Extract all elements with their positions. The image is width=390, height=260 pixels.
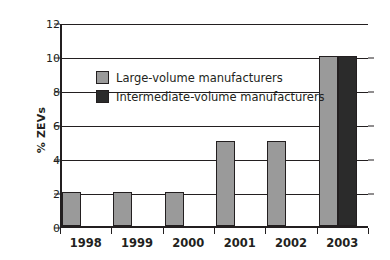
gridline-12 — [62, 24, 368, 25]
legend-label-2: Intermediate-volume manufacturers — [116, 90, 325, 104]
bar-2003-series-2 — [338, 56, 357, 226]
bar-1998-series-1 — [62, 192, 81, 226]
x-tick-mark-1 — [111, 228, 112, 234]
bar-2001-series-1 — [216, 141, 235, 226]
x-tick-mark-5 — [317, 228, 318, 234]
bar-2002-series-1 — [267, 141, 286, 226]
x-tick-mark-4 — [265, 228, 266, 234]
legend-swatch-1 — [96, 71, 109, 84]
legend-item-2: Intermediate-volume manufacturers — [96, 87, 325, 106]
plot-area — [60, 24, 368, 228]
y-tick-mark-right-8 — [368, 92, 374, 93]
x-tick-label-2003: 2003 — [312, 236, 372, 250]
legend-item-1: Large-volume manufacturers — [96, 68, 325, 87]
legend-label-1: Large-volume manufacturers — [116, 71, 283, 85]
y-tick-mark-right-2 — [368, 194, 374, 195]
x-tick-mark-3 — [214, 228, 215, 234]
bar-chart-figure: % ZEVs 024681012 19981999200020012002200… — [0, 0, 390, 260]
chart-legend: Large-volume manufacturersIntermediate-v… — [96, 68, 325, 106]
y-tick-mark-right-10 — [368, 58, 374, 59]
y-tick-mark-right-6 — [368, 126, 374, 127]
y-tick-mark-right-4 — [368, 160, 374, 161]
legend-swatch-2 — [96, 90, 109, 103]
bar-1999-series-1 — [113, 192, 132, 226]
x-tick-mark-2 — [163, 228, 164, 234]
x-tick-mark-6 — [368, 228, 369, 234]
x-tick-mark-0 — [60, 228, 61, 234]
bar-2000-series-1 — [165, 192, 184, 226]
